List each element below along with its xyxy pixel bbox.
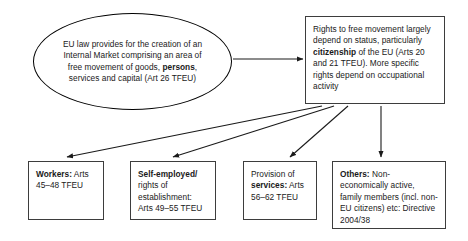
node-rights-to-free-movement: Rights to free movement largely depend o… <box>305 16 445 104</box>
node-provision-of-services-text: Provision of services: Arts 56–62 TFEU <box>244 162 316 203</box>
node-others-text: Others: Non-economically active, family … <box>333 162 445 226</box>
node-provision-of-services: Provision of services: Arts 56–62 TFEU <box>243 161 317 220</box>
node-rights-to-free-movement-text: Rights to free movement largely depend o… <box>306 17 444 92</box>
node-internal-market: EU law provides for the creation of an I… <box>33 13 232 110</box>
node-others: Others: Non-economically active, family … <box>332 161 446 229</box>
diagram-canvas: EU law provides for the creation of an I… <box>0 0 468 241</box>
node-self-employed-text: Self-employed/ rights of establishment: … <box>131 162 215 215</box>
node-internal-market-text: EU law provides for the creation of an I… <box>58 39 208 85</box>
connector-rights-to-services <box>290 106 348 157</box>
node-self-employed: Self-employed/ rights of establishment: … <box>130 161 216 220</box>
node-workers-text: Workers: Arts 45–48 TFEU <box>29 162 103 192</box>
node-workers: Workers: Arts 45–48 TFEU <box>28 161 104 220</box>
connector-rights-to-workers <box>67 106 322 157</box>
